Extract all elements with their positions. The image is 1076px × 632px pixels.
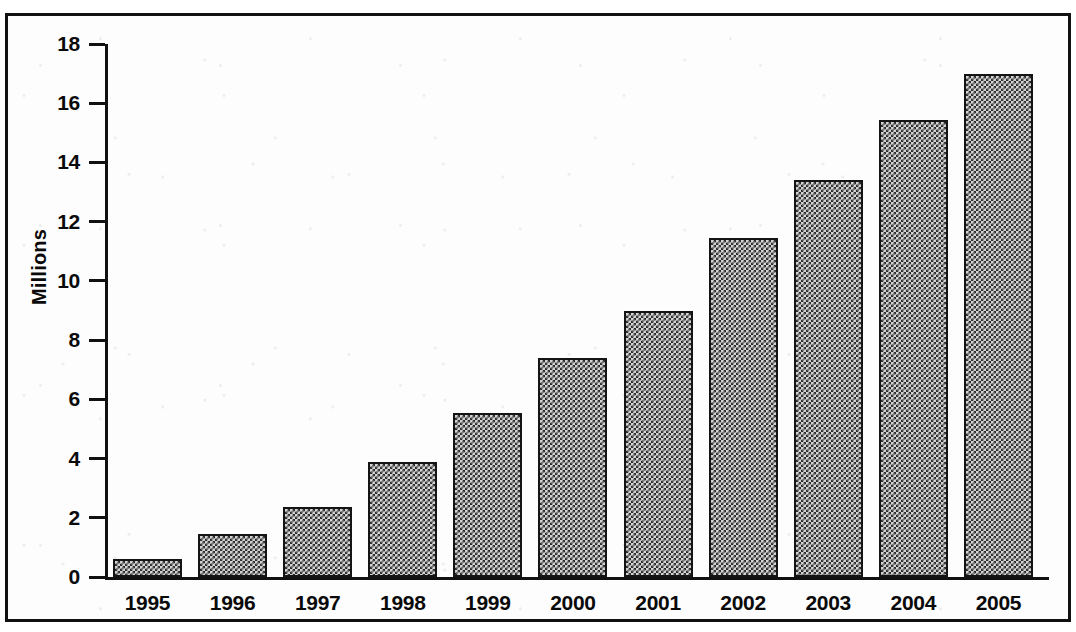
bar[interactable] [538, 358, 607, 577]
y-axis-tick: 12 [89, 220, 105, 223]
bar[interactable] [113, 559, 182, 577]
y-axis-tick: 16 [89, 102, 105, 105]
x-axis-tick-label: 2005 [964, 591, 1033, 615]
bar-group: 2002 [709, 44, 794, 577]
bar-group: 1997 [283, 44, 368, 577]
bar[interactable] [964, 74, 1033, 577]
x-axis-tick-label: 2003 [794, 591, 863, 615]
y-axis-tick: 18 [89, 43, 105, 46]
x-axis-tick-label: 2000 [538, 591, 607, 615]
bar[interactable] [624, 311, 693, 578]
y-axis-tick: 6 [89, 398, 105, 401]
plot-area: 024681012141618 199519961997199819992000… [113, 44, 1049, 577]
y-axis-tick-label: 18 [57, 32, 80, 56]
bar-group: 2005 [964, 44, 1049, 577]
x-axis-tick-label: 1997 [283, 591, 352, 615]
x-axis-tick-label: 1996 [198, 591, 267, 615]
y-axis-tick-label: 6 [69, 387, 80, 411]
bar-series: 1995199619971998199920002001200220032004… [113, 44, 1049, 577]
bar-group: 1995 [113, 44, 198, 577]
y-axis-tick: 2 [89, 516, 105, 519]
x-axis-line [105, 577, 1049, 580]
bar-group: 1996 [198, 44, 283, 577]
y-axis-tick-label: 10 [57, 269, 80, 293]
x-axis-tick-label: 2002 [709, 591, 778, 615]
y-axis-tick-label: 12 [57, 210, 80, 234]
y-axis-tick: 14 [89, 161, 105, 164]
y-axis-tick: 0 [89, 576, 105, 579]
bar[interactable] [879, 120, 948, 577]
y-axis-title: Millions [28, 229, 51, 305]
x-axis-tick-label: 1999 [453, 591, 522, 615]
bar[interactable] [368, 462, 437, 577]
bar-group: 2003 [794, 44, 879, 577]
chart-figure: Millions 024681012141618 199519961997199… [0, 0, 1076, 632]
bar-group: 1999 [453, 44, 538, 577]
y-axis-tick-label: 2 [69, 506, 80, 530]
bar[interactable] [198, 534, 267, 577]
y-axis-tick-label: 14 [57, 150, 80, 174]
bar-group: 2000 [538, 44, 623, 577]
y-axis-tick: 8 [89, 339, 105, 342]
y-axis-line [105, 44, 108, 578]
y-axis-tick-label: 16 [57, 91, 80, 115]
x-axis-tick-label: 2004 [879, 591, 948, 615]
y-axis-tick-label: 4 [69, 447, 80, 471]
bar-group: 2004 [879, 44, 964, 577]
bar[interactable] [709, 238, 778, 577]
x-axis-tick-label: 2001 [624, 591, 693, 615]
y-axis-tick: 10 [89, 279, 105, 282]
bar-group: 1998 [368, 44, 453, 577]
bar[interactable] [794, 180, 863, 577]
bar[interactable] [453, 413, 522, 577]
x-axis-tick-label: 1998 [368, 591, 437, 615]
bar-group: 2001 [624, 44, 709, 577]
x-axis-tick-label: 1995 [113, 591, 182, 615]
y-axis-tick-label: 0 [69, 565, 80, 589]
y-axis-tick: 4 [89, 457, 105, 460]
bar[interactable] [283, 507, 352, 577]
y-axis-tick-label: 8 [69, 328, 80, 352]
